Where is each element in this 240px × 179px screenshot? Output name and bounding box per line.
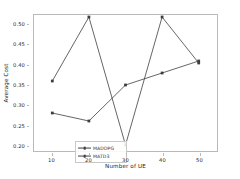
data-point-matd3-30 xyxy=(124,84,127,87)
figure-canvas: Average Cost 0.200.250.300.350.400.450.5… xyxy=(0,0,240,179)
data-point-matd3-10 xyxy=(51,112,54,115)
data-point-maddpg-20 xyxy=(88,16,91,19)
x-tick-mark-50 xyxy=(200,153,201,156)
x-axis-label: Number of UE xyxy=(33,163,218,169)
data-point-matd3-50 xyxy=(197,60,200,63)
legend-marker-icon-maddpg xyxy=(78,145,91,152)
x-tick-mark-40 xyxy=(163,153,164,156)
x-tick-mark-20 xyxy=(89,153,90,156)
y-tick-mark-0.45 xyxy=(27,44,30,45)
y-axis-tick-labels: 0.200.250.300.350.400.450.50 xyxy=(0,14,29,152)
y-tick-mark-0.30 xyxy=(27,105,30,106)
y-tick-mark-0.40 xyxy=(27,65,30,66)
plot-svg xyxy=(34,15,217,151)
plot-area: MADDPG MATD3 xyxy=(33,14,218,152)
series-line-matd3 xyxy=(52,61,198,121)
data-point-matd3-20 xyxy=(88,120,91,123)
y-tick-mark-0.20 xyxy=(27,146,30,147)
y-tick-mark-0.25 xyxy=(27,126,30,127)
y-tick-mark-0.35 xyxy=(27,85,30,86)
x-tick-mark-10 xyxy=(52,153,53,156)
data-point-matd3-40 xyxy=(161,72,164,75)
series-line-maddpg xyxy=(52,17,198,145)
legend-item-maddpg: MADDPG xyxy=(78,144,123,152)
data-point-maddpg-40 xyxy=(161,16,164,19)
x-tick-mark-30 xyxy=(126,153,127,156)
data-point-maddpg-10 xyxy=(51,80,54,83)
y-tick-mark-0.50 xyxy=(27,24,30,25)
legend-label-maddpg: MADDPG xyxy=(93,146,114,151)
